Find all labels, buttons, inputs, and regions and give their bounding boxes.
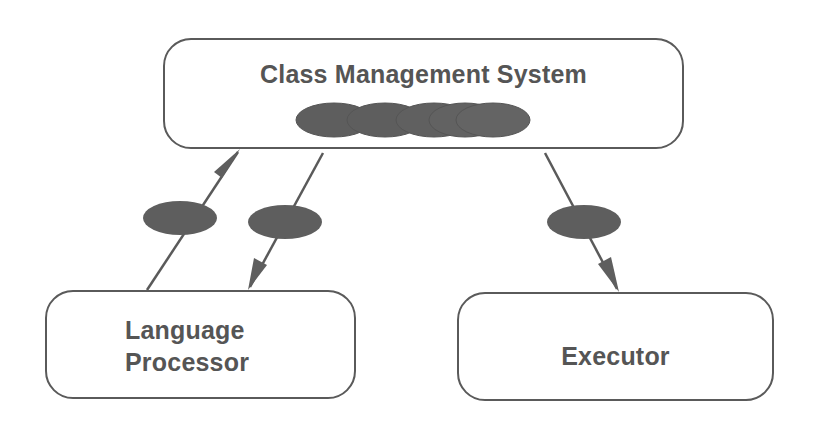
executor-label: Executor [459,342,772,371]
executor-node: Executor [457,292,774,401]
arrowhead-up-icon [214,149,240,178]
edge-cms-to-ex [545,153,621,292]
class-management-system-node: Class Management System [163,38,684,149]
diagram-canvas: Class Management System Language Process… [0,0,817,438]
arrowhead-down-right-icon [598,257,619,292]
message-token-cms-to-lp [248,205,322,239]
message-token-lp-to-cms [143,201,217,235]
cms-label: Class Management System [165,60,682,89]
language-processor-node: Language Processor [45,290,356,399]
edge-cms-to-lp [248,153,323,290]
message-token-cms-to-ex [547,205,621,239]
language-processor-label: Language Processor [125,314,354,378]
language-processor-label-line1: Language [125,314,354,346]
edge-lp-to-cms [143,149,240,290]
language-processor-label-line2: Processor [125,346,354,378]
